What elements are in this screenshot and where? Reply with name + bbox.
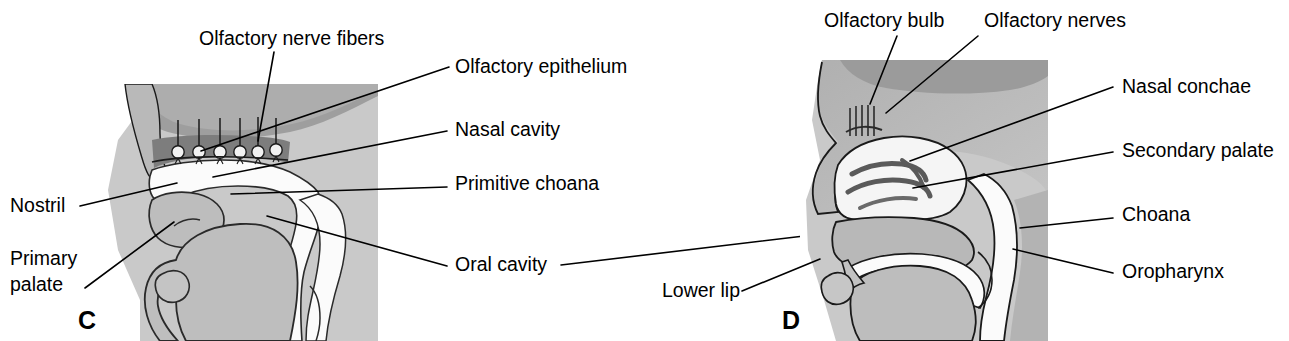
- lower-lip-d: [821, 273, 853, 305]
- label-olfactory-nerves: Olfactory nerves: [984, 9, 1126, 31]
- label-olfactory-nerve-fibers: Olfactory nerve fibers: [199, 27, 385, 49]
- figure-root: Olfactory nerve fibers Olfactory epithel…: [0, 0, 1289, 341]
- label-nasal-conchae: Nasal conchae: [1122, 75, 1251, 97]
- anatomy-figure-svg: Olfactory nerve fibers Olfactory epithel…: [0, 0, 1289, 341]
- label-lower-lip: Lower lip: [662, 279, 740, 301]
- panel-d: Olfactory bulb Olfactory nerves Nasal co…: [662, 9, 1274, 341]
- lower-lip-lobe-c: [155, 271, 189, 303]
- label-oropharynx: Oropharynx: [1122, 260, 1224, 282]
- label-oral-cavity: Oral cavity: [455, 253, 547, 275]
- label-olfactory-bulb: Olfactory bulb: [824, 9, 944, 31]
- label-nostril: Nostril: [10, 194, 65, 216]
- label-choana: Choana: [1122, 203, 1190, 225]
- panel-c: Olfactory nerve fibers Olfactory epithel…: [10, 27, 627, 341]
- label-primitive-choana: Primitive choana: [455, 172, 599, 194]
- label-primary-palate-line1: Primary: [10, 247, 77, 269]
- label-primary-palate-line2: palate: [10, 273, 63, 295]
- label-nasal-cavity: Nasal cavity: [455, 118, 560, 140]
- label-secondary-palate: Secondary palate: [1122, 139, 1274, 161]
- panel-letter-c: C: [78, 306, 96, 334]
- panel-letter-d: D: [782, 306, 800, 334]
- leader-oral-cavity-to-panel-d: [561, 232, 838, 265]
- label-olfactory-epithelium: Olfactory epithelium: [455, 55, 627, 77]
